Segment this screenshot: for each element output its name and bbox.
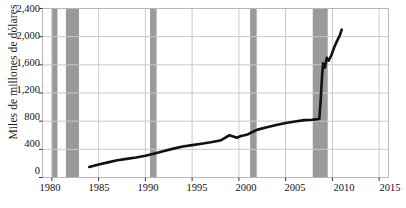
axis-ticks: [39, 9, 379, 182]
chart-container: Miles de millones de dólares 2,400 2,000…: [0, 0, 406, 208]
grid-lines: [43, 9, 389, 178]
plot-area: [0, 0, 406, 208]
data-series-line: [89, 30, 341, 167]
